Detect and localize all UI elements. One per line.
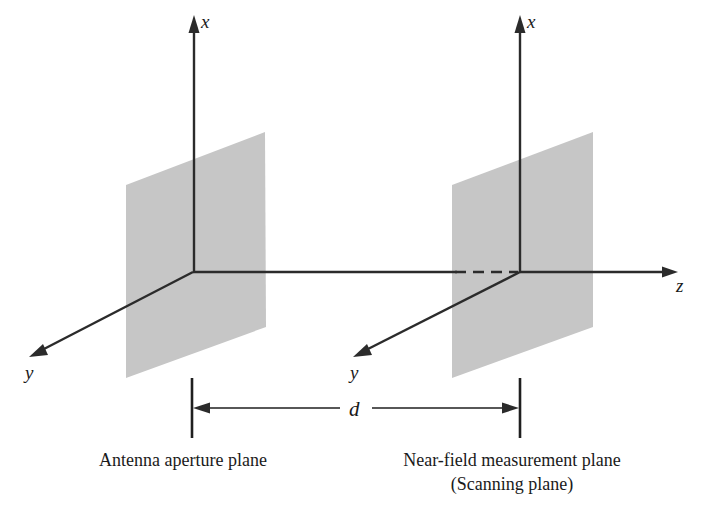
near-field-measurement-plane-surface [452,132,593,378]
right-x-axis-arrowhead [515,15,526,33]
antenna-aperture-plane-caption: Antenna aperture plane [99,450,267,470]
z-axis-label: z [675,275,684,296]
dimension-distance-label: d [349,397,360,421]
near-field-plane-caption-line2: (Scanning plane) [451,474,573,495]
right-x-axis-label: x [526,11,536,32]
left-y-axis-arrowhead [29,344,48,357]
left-x-axis-label: x [200,11,210,32]
figure-container: z x y x y d Antenna aperture plane Near-… [0,0,703,510]
right-y-axis-arrowhead [353,344,372,357]
left-y-axis-label: y [23,362,34,383]
dimension-arrow-right-head [502,403,519,414]
left-x-axis-arrowhead [189,15,200,33]
dimension-arrow-left-head [193,403,210,414]
near-field-plane-caption-line1: Near-field measurement plane [403,450,621,470]
antenna-aperture-plane-surface [126,132,266,378]
right-y-axis-label: y [348,362,359,383]
diagram-canvas: z x y x y d Antenna aperture plane Near-… [0,0,703,510]
